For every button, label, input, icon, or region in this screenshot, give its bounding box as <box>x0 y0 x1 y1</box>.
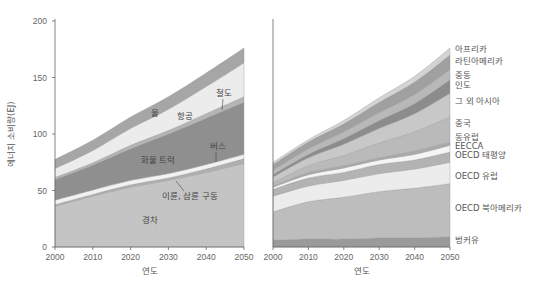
legend-label: 벙커유 <box>455 235 479 245</box>
legend-label: 중동 <box>455 70 471 80</box>
annotation-label: 화물 트럭 <box>141 155 176 165</box>
annotation-label: 경차 <box>142 215 158 225</box>
annotation-label: 물 <box>151 108 159 118</box>
x-tick-label: 2040 <box>197 252 216 262</box>
y-tick-label: 200 <box>33 16 47 26</box>
y-tick-label: 0 <box>42 242 47 252</box>
x-tick-label: 2020 <box>334 252 353 262</box>
legend-label: 동유럽 <box>455 132 479 142</box>
x-tick-label: 2050 <box>441 252 460 262</box>
x-tick-label: 2030 <box>370 252 389 262</box>
legend-label: OECD 유럽 <box>455 171 498 181</box>
legend-label: 라틴아메리카 <box>455 56 503 66</box>
x-tick-label: 2040 <box>405 252 424 262</box>
annotation-label: 버스 <box>210 141 226 151</box>
x-tick-label: 2010 <box>83 252 102 262</box>
x-tick-label: 2000 <box>46 252 65 262</box>
legend-label: OECD 북아메리카 <box>455 203 522 213</box>
x-tick-label: 2000 <box>264 252 283 262</box>
right-chart-region: 200020102020203020402050연도벙커유OECD 북아메리카O… <box>264 19 523 276</box>
y-tick-label: 150 <box>33 73 47 83</box>
legend-label: EECCA <box>455 141 484 151</box>
y-axis-label: 에너지 소비량(EJ) <box>6 101 16 166</box>
legend-label: OECD 태평양 <box>455 150 506 160</box>
legend-label: 아프리카 <box>455 44 487 54</box>
left-chart-transport-mode: 200020102020203020402050연도050100150200에너… <box>6 16 254 276</box>
x-tick-label: 2010 <box>299 252 318 262</box>
annotation-label: 항공 <box>177 111 193 121</box>
y-tick-label: 50 <box>38 186 48 196</box>
annotation-label: 철도 <box>216 88 232 98</box>
x-tick-label: 2030 <box>159 252 178 262</box>
x-tick-label: 2050 <box>235 252 254 262</box>
annotation-label: 이륜, 삼륜 구동 <box>162 191 218 201</box>
x-tick-label: 2020 <box>121 252 140 262</box>
legend-label: 중국 <box>455 118 471 128</box>
x-axis-label: 연도 <box>142 266 158 276</box>
chart-canvas: 200020102020203020402050연도050100150200에너… <box>0 0 536 294</box>
x-axis-label: 연도 <box>354 266 370 276</box>
legend-label: 인도 <box>455 80 471 90</box>
legend-label: 그 외 아시아 <box>455 96 500 106</box>
y-tick-label: 100 <box>33 129 47 139</box>
